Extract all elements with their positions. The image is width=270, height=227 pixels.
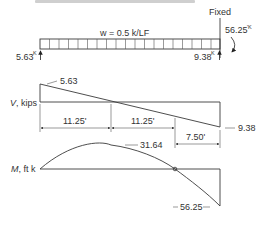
right-reaction-value: 9.38 <box>194 52 212 62</box>
shear-min-label: 9.38 <box>238 123 256 133</box>
fixed-moment-unit: 'K <box>247 24 252 30</box>
beam-diagram: Fixed w = 0.5 k/LF 5.63 K 9.38 K <box>0 0 270 227</box>
dimension-2: 11.25' <box>131 116 155 126</box>
dimension-1: 11.25' <box>63 116 87 126</box>
left-reaction-value: 5.63 <box>16 52 34 62</box>
moment-axis-label: M, ft k <box>11 164 36 174</box>
load-label: w = 0.5 k/LF <box>99 28 150 38</box>
moment-diagram: M, ft k 31.64 56.25 <box>11 140 220 212</box>
moment-max-label: 31.64 <box>140 140 163 150</box>
left-reaction-unit: K <box>33 50 37 56</box>
dimension-lines: 11.25' 11.25' 7.50' <box>40 104 220 148</box>
shear-max-label: 5.63 <box>60 76 78 86</box>
shear-axis-label: V, kips <box>10 98 38 108</box>
moment-arrow-icon <box>231 37 235 52</box>
moment-min-label: 56.25 <box>180 202 203 212</box>
shear-max-leader <box>47 81 57 84</box>
fixed-moment-value: 56.25 <box>225 25 248 35</box>
load-ticks <box>50 39 212 49</box>
right-reaction-unit: K <box>211 50 215 56</box>
cropped-header-text <box>35 0 195 3</box>
distributed-load <box>40 39 220 49</box>
fixed-support-label: Fixed <box>209 7 231 17</box>
dimension-3: 7.50' <box>186 132 206 142</box>
loading-diagram: Fixed w = 0.5 k/LF 5.63 K 9.38 K <box>16 7 252 62</box>
shear-diagram: V, kips 5.63 9.38 11.25' 11.25' 7.50' <box>10 76 256 148</box>
moment-curve <box>40 143 220 206</box>
